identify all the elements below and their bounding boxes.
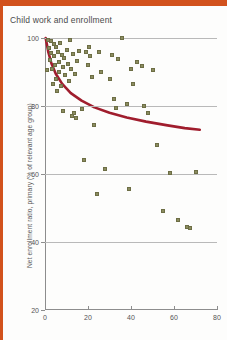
data-point — [116, 57, 120, 61]
data-point — [188, 226, 192, 230]
data-point — [125, 102, 129, 106]
data-point — [57, 70, 61, 74]
x-tick-40 — [131, 306, 132, 310]
data-point — [66, 62, 70, 66]
data-point — [194, 170, 198, 174]
y-tick-label-20: 20 — [9, 307, 39, 314]
data-point — [88, 54, 92, 58]
data-point — [131, 82, 135, 86]
data-point — [161, 209, 165, 213]
data-point — [47, 46, 51, 50]
data-point — [108, 77, 112, 81]
data-point — [146, 111, 150, 115]
data-point — [54, 45, 58, 49]
chart-page: Child work and enrollment 20406080100020… — [0, 0, 227, 340]
data-point — [92, 123, 96, 127]
data-point — [71, 52, 75, 56]
x-tick-label-0: 0 — [33, 314, 57, 321]
y-tick-80 — [41, 106, 45, 107]
data-point — [61, 109, 65, 113]
data-point — [99, 70, 103, 74]
chart-title: Child work and enrollment — [10, 15, 112, 25]
data-point — [90, 75, 94, 79]
x-tick-label-40: 40 — [119, 314, 143, 321]
left-accent-edge — [0, 0, 3, 340]
data-point — [61, 65, 65, 69]
data-point — [73, 72, 77, 76]
data-point — [176, 218, 180, 222]
data-point — [142, 104, 146, 108]
data-point — [103, 167, 107, 171]
gridline-y-40 — [45, 242, 217, 243]
x-tick-0 — [45, 306, 46, 310]
data-point — [57, 60, 61, 64]
data-point — [74, 116, 78, 120]
gridline-y-60 — [45, 174, 217, 175]
data-point — [59, 84, 63, 88]
y-tick-label-60: 60 — [9, 171, 39, 178]
data-point — [120, 36, 124, 40]
y-tick-label-80: 80 — [9, 103, 39, 110]
data-point — [129, 67, 133, 71]
data-point — [75, 59, 79, 63]
x-tick-60 — [174, 306, 175, 310]
trend-curve — [46, 38, 200, 130]
data-point — [82, 158, 86, 162]
data-point — [86, 63, 90, 67]
data-point — [65, 48, 69, 52]
data-point — [140, 64, 144, 68]
x-tick-label-80: 80 — [205, 314, 227, 321]
data-point — [48, 58, 52, 62]
data-point — [77, 49, 81, 53]
y-tick-40 — [41, 242, 45, 243]
data-point — [110, 53, 114, 57]
data-point — [112, 97, 116, 101]
data-point — [80, 107, 84, 111]
data-point — [127, 187, 131, 191]
data-point — [151, 68, 155, 72]
plot-area: 20406080100020406080 — [45, 38, 217, 310]
y-tick-label-100: 100 — [9, 35, 39, 42]
y-tick-20 — [41, 310, 45, 311]
data-point — [55, 89, 59, 93]
top-accent-band — [0, 0, 227, 6]
data-point — [45, 68, 49, 72]
data-point — [95, 192, 99, 196]
data-point — [72, 111, 76, 115]
data-point — [51, 82, 55, 86]
data-point — [69, 67, 73, 71]
data-point — [62, 56, 66, 60]
y-tick-60 — [41, 174, 45, 175]
gridline-y-80 — [45, 106, 217, 107]
data-point — [97, 50, 101, 54]
data-point — [52, 54, 56, 58]
data-point — [87, 45, 91, 49]
data-point — [68, 38, 72, 42]
y-tick-label-40: 40 — [9, 239, 39, 246]
data-point — [50, 67, 54, 71]
data-point — [58, 41, 62, 45]
data-point — [155, 143, 159, 147]
data-point — [67, 79, 71, 83]
data-point — [63, 73, 67, 77]
x-tick-label-20: 20 — [76, 314, 100, 321]
x-tick-20 — [88, 306, 89, 310]
data-point — [114, 106, 118, 110]
y-axis-title: Net enrollment ratio, primary (% of rele… — [26, 103, 33, 268]
data-point — [54, 77, 58, 81]
data-point — [168, 171, 172, 175]
y-tick-100 — [41, 38, 45, 39]
x-tick-80 — [217, 306, 218, 310]
x-tick-label-60: 60 — [162, 314, 186, 321]
